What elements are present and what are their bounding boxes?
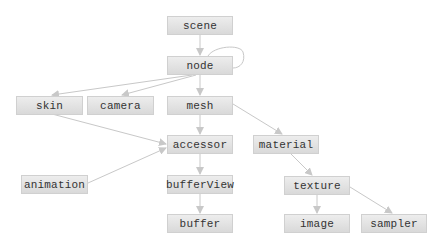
edge-material-texture [290, 153, 312, 175]
edge-texture-sampler [350, 187, 392, 213]
edge-node-skin [52, 75, 192, 95]
diagram-canvas: scene node skin camera mesh accessor mat… [0, 0, 440, 248]
edge-node-camera [122, 75, 196, 95]
edges-layer [0, 0, 440, 248]
node-accessor: accessor [167, 135, 233, 154]
node-animation: animation [21, 175, 88, 194]
node-scene: scene [167, 16, 233, 35]
edge-mesh-material [233, 104, 282, 134]
edge-animation-accessor [88, 148, 166, 183]
node-skin: skin [16, 96, 83, 115]
node-node: node [167, 56, 233, 75]
node-texture: texture [284, 176, 350, 195]
node-material: material [253, 135, 319, 154]
node-sampler: sampler [361, 214, 427, 233]
node-image: image [284, 214, 350, 233]
edge-skin-accessor [52, 114, 166, 144]
node-mesh: mesh [167, 96, 233, 115]
node-bufferview: bufferView [167, 175, 233, 194]
node-camera: camera [87, 96, 154, 115]
node-buffer: buffer [167, 214, 233, 233]
